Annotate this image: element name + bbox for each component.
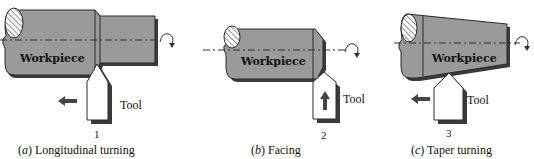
tool-label: Tool (120, 98, 142, 112)
hatched-cross-section-icon (401, 14, 417, 42)
feed-arrow-icon (417, 97, 430, 101)
feed-arrowhead-icon (58, 96, 65, 106)
rotation-arrow-icon (515, 37, 528, 47)
panel-longitudinal-turning: Workpiece Tool 1 (a) Longitudinal turnin… (0, 8, 175, 157)
position-number: 3 (446, 127, 452, 139)
panel-facing: Workpiece Tool 2 (b) Facing (203, 26, 365, 157)
hatched-cross-section-icon (5, 8, 23, 38)
workpiece-label: Workpiece (240, 55, 306, 68)
tool-label: Tool (467, 93, 489, 107)
rotation-arrow-icon (160, 34, 173, 44)
panel-taper-turning: Workpiece Tool 3 (c) Taper turning (394, 14, 530, 157)
hatched-cross-section-icon (224, 26, 240, 48)
feed-arrowhead-icon (411, 94, 418, 104)
feed-arrow-icon (323, 98, 327, 110)
feed-arrow-icon (64, 99, 77, 103)
cutting-tool (434, 73, 463, 120)
rotation-arrowhead-icon (169, 43, 175, 48)
tool-label: Tool (343, 92, 365, 106)
caption-taper-turning: (c) Taper turning (411, 143, 492, 157)
workpiece-label: Workpiece (19, 52, 85, 65)
workpiece-label: Workpiece (431, 52, 497, 65)
position-number: 2 (321, 129, 327, 141)
rotation-arrow-icon (345, 44, 358, 54)
turning-operations-figure: Workpiece Tool 1 (a) Longitudinal turnin… (0, 0, 534, 159)
caption-longitudinal-turning: (a) Longitudinal turning (18, 143, 135, 157)
position-number: 1 (94, 128, 100, 140)
caption-facing: (b) Facing (251, 143, 301, 157)
rotation-arrowhead-icon (354, 53, 360, 58)
rotation-arrowhead-icon (524, 46, 530, 51)
